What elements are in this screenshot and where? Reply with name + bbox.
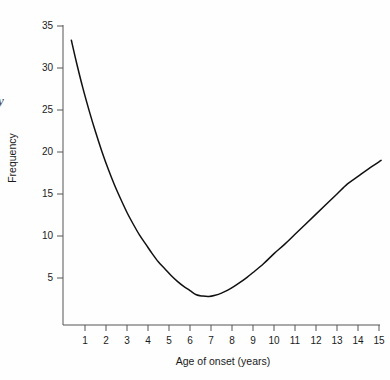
y-tick-label: 25	[29, 105, 53, 115]
x-tick-label: 2	[96, 336, 116, 346]
y-axis-ticks	[57, 26, 63, 278]
y-tick-label: 10	[29, 231, 53, 241]
frequency-curve	[71, 40, 381, 296]
y-tick-label: 35	[29, 21, 53, 31]
plot-canvas	[0, 0, 390, 380]
x-axis-ticks	[85, 325, 379, 331]
y-tick-label: 5	[29, 273, 53, 283]
x-tick-label: 14	[348, 336, 368, 346]
x-tick-label: 11	[285, 336, 305, 346]
chart-figure: y Frequency Age of onset (years) 5101520…	[0, 0, 390, 380]
x-tick-label: 7	[201, 336, 221, 346]
x-tick-label: 12	[306, 336, 326, 346]
y-tick-label: 30	[29, 63, 53, 73]
y-tick-label: 15	[29, 189, 53, 199]
x-tick-label: 10	[264, 336, 284, 346]
x-tick-label: 15	[369, 336, 389, 346]
x-tick-label: 3	[117, 336, 137, 346]
x-tick-label: 8	[222, 336, 242, 346]
x-tick-label: 5	[159, 336, 179, 346]
x-tick-label: 9	[243, 336, 263, 346]
x-tick-label: 4	[138, 336, 158, 346]
y-tick-label: 20	[29, 147, 53, 157]
x-tick-label: 13	[327, 336, 347, 346]
x-tick-label: 1	[75, 336, 95, 346]
x-tick-label: 6	[180, 336, 200, 346]
